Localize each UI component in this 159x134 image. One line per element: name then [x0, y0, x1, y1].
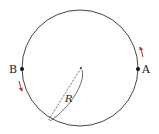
point-a [136, 67, 140, 71]
arrow-down-icon [19, 81, 22, 91]
label-a: A [141, 63, 151, 76]
label-b: B [9, 63, 17, 76]
circle-track [22, 10, 138, 126]
center-point [80, 67, 82, 69]
circle-diagram: A B R [0, 0, 159, 134]
label-r: R [64, 93, 73, 104]
arrow-up-icon [140, 47, 143, 57]
point-b [20, 67, 24, 71]
